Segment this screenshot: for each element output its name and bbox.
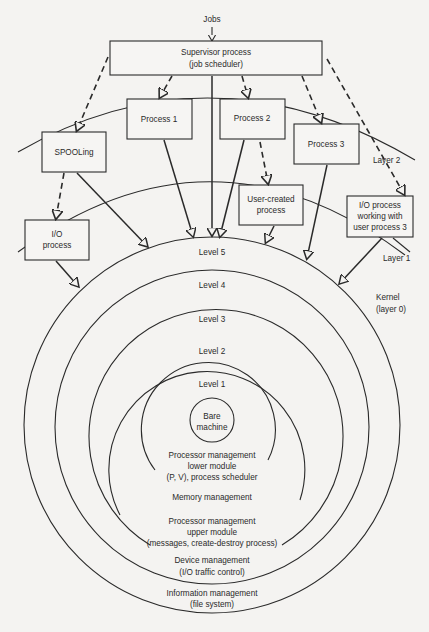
svg-text:process: process xyxy=(43,241,72,250)
process3-box: Process 3 xyxy=(294,124,359,164)
supervisor-box: Supervisor process (job scheduler) xyxy=(110,41,322,75)
level4-function: Device management (I/O traffic control) xyxy=(174,556,250,577)
layer1-leader xyxy=(393,238,410,252)
svg-text:lower module: lower module xyxy=(188,462,237,471)
kernel-sublabel: (layer 0) xyxy=(376,305,406,314)
svg-text:process: process xyxy=(257,206,286,215)
svg-text:(messages, create-destroy proc: (messages, create-destroy process) xyxy=(147,539,278,548)
svg-text:Processor management: Processor management xyxy=(169,517,257,526)
process2-box: Process 2 xyxy=(220,99,285,139)
svg-text:Process 3: Process 3 xyxy=(308,140,345,149)
bare-label: Bare xyxy=(203,412,221,421)
io-user3-box: I/O process working with user process 3 xyxy=(347,196,413,237)
level2-function: Memory management xyxy=(172,493,252,502)
svg-text:working with: working with xyxy=(356,212,402,221)
jobs-label: Jobs xyxy=(203,15,220,24)
layer1-label: Layer 1 xyxy=(383,254,411,263)
level1-label: Level 1 xyxy=(199,380,226,389)
layer2-label: Layer 2 xyxy=(373,156,401,165)
svg-text:Supervisor process: Supervisor process xyxy=(181,48,251,57)
os-layer-diagram: Jobs Supervisor process (job scheduler) … xyxy=(0,0,429,632)
level4-label: Level 4 xyxy=(199,281,226,290)
io-process-box: I/O process xyxy=(25,220,89,260)
svg-text:User-created: User-created xyxy=(247,195,295,204)
level2-label: Level 2 xyxy=(199,347,226,356)
svg-text:Information management: Information management xyxy=(166,589,258,598)
level3-label: Level 3 xyxy=(199,315,226,324)
level3-function: Processor management upper module (messa… xyxy=(147,517,278,548)
svg-text:I/O process: I/O process xyxy=(359,201,401,210)
level1-function: Processor management lower module (P, V)… xyxy=(167,451,258,482)
svg-text:(job scheduler): (job scheduler) xyxy=(189,60,243,69)
svg-text:I/O: I/O xyxy=(52,230,63,239)
spooling-box: SPOOLing xyxy=(42,132,106,172)
kernel-label: Kernel xyxy=(376,293,400,302)
svg-text:Processor management: Processor management xyxy=(169,451,257,460)
svg-text:(P, V), process scheduler: (P, V), process scheduler xyxy=(167,473,258,482)
level5-label: Level 5 xyxy=(199,248,226,257)
svg-text:(file system): (file system) xyxy=(190,600,234,609)
svg-text:user process 3: user process 3 xyxy=(353,223,407,232)
svg-text:SPOOLing: SPOOLing xyxy=(54,148,94,157)
svg-text:upper module: upper module xyxy=(187,528,238,537)
process1-box: Process 1 xyxy=(127,99,192,139)
svg-text:Process 2: Process 2 xyxy=(234,114,271,123)
svg-text:Process 1: Process 1 xyxy=(141,115,178,124)
svg-text:Device management: Device management xyxy=(174,556,250,565)
bare-sublabel: machine xyxy=(197,423,228,432)
svg-text:(I/O traffic control): (I/O traffic control) xyxy=(179,568,245,577)
level5-function: Information management (file system) xyxy=(166,589,258,609)
user-created-box: User-created process xyxy=(239,185,303,225)
